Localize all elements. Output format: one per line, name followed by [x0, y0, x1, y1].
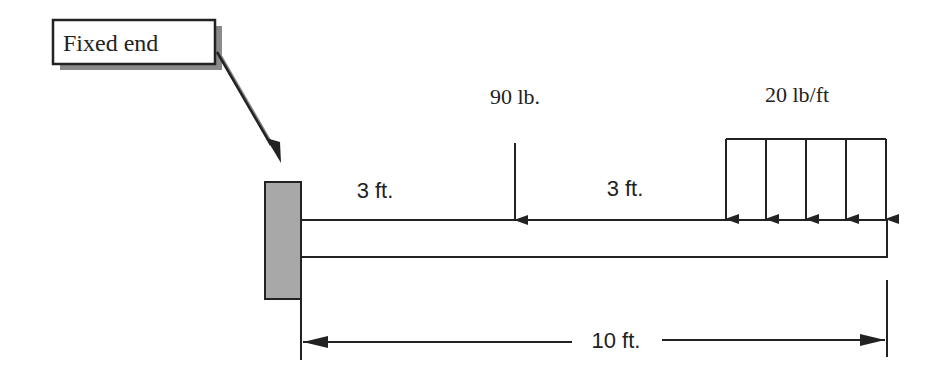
- fixed-end-callout: Fixed end: [53, 20, 222, 70]
- fixed-wall-support: [265, 182, 301, 299]
- distributed-load-label: 20 lb/ft: [765, 82, 829, 107]
- callout-arrow-icon: [217, 52, 281, 163]
- segment-2-dimension-label: 3 ft.: [607, 176, 644, 201]
- point-load-label: 90 lb.: [490, 84, 540, 109]
- distributed-load-arrows-icon: [726, 139, 886, 219]
- callout-label: Fixed end: [63, 30, 158, 56]
- beam: [301, 220, 887, 257]
- total-length-label: 10 ft.: [592, 328, 641, 353]
- arrowhead-left-icon: [303, 336, 328, 348]
- beam-diagram: Fixed end 90 lb. 20 lb/ft 3 ft. 3 ft. 10…: [0, 0, 939, 381]
- arrowhead-right-icon: [860, 334, 885, 346]
- segment-1-dimension-label: 3 ft.: [357, 178, 394, 203]
- total-length-dimension: 10 ft.: [301, 280, 887, 360]
